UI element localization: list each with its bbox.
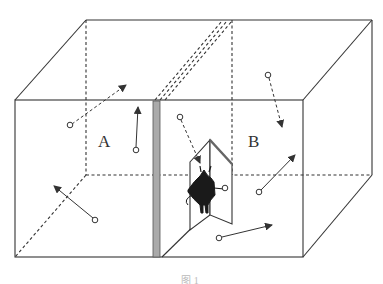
figure-caption: 图 1 [175,272,205,284]
chamber-a-label: A [98,132,110,152]
chamber-b-label: B [248,132,259,152]
molecules [54,72,295,241]
partition-wall [153,101,160,257]
